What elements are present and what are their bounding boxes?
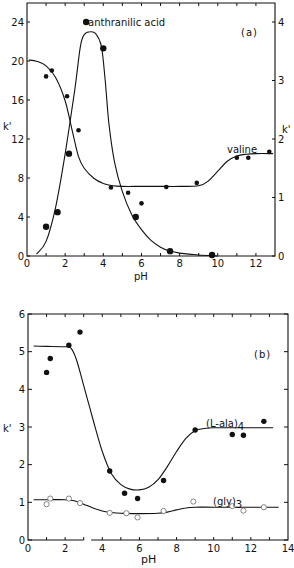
panel-a-y-axis-right: 01234	[272, 17, 284, 262]
data-point	[139, 201, 144, 206]
y-tick-label: 2	[19, 459, 25, 470]
data-point	[100, 45, 106, 51]
panel-a-chart: 024681012 04812162024 01234 anthranilic …	[3, 3, 291, 282]
data-point-open	[107, 510, 112, 515]
data-point	[76, 128, 81, 133]
fit-curve	[29, 60, 273, 186]
data-point	[235, 155, 240, 160]
y-tick-label: 3	[19, 422, 25, 433]
data-point	[54, 209, 60, 215]
data-point-open	[124, 511, 129, 516]
data-point-open	[135, 515, 140, 520]
x-tick-label: 6	[138, 258, 144, 269]
gly-label-subscript: 3	[236, 499, 242, 510]
y-tick-label: 4	[19, 384, 25, 395]
y-right-tick-label: 2	[278, 134, 284, 145]
panel-b-y-label: k'	[3, 423, 12, 434]
panel-a-points	[43, 19, 272, 258]
y-tick-label: 24	[11, 17, 24, 28]
data-point	[194, 181, 199, 186]
panel-a-x-label: pH	[134, 271, 148, 282]
data-point	[135, 496, 140, 501]
data-point	[261, 419, 266, 424]
panel-a-y-label-right: k'	[282, 124, 291, 135]
y-tick-label: 5	[19, 346, 25, 357]
x-tick-label: 10	[211, 258, 224, 269]
data-point-open	[48, 496, 53, 501]
data-point-open	[191, 499, 196, 504]
x-tick-label: 12	[250, 258, 263, 269]
x-tick-label: 2	[62, 258, 68, 269]
data-point	[44, 370, 49, 375]
data-point	[230, 432, 235, 437]
y-tick-label: 1	[19, 497, 25, 508]
x-tick-label: 10	[207, 543, 220, 554]
x-tick-label: 0	[25, 543, 31, 554]
panel-b-y-axis: 0123456	[19, 309, 288, 546]
data-point	[164, 185, 169, 190]
data-point-open	[161, 508, 166, 513]
figure: 024681012 04812162024 01234 anthranilic …	[0, 0, 294, 568]
data-point	[66, 150, 72, 156]
data-point-open	[261, 505, 266, 510]
data-point	[107, 468, 112, 473]
data-point	[209, 252, 215, 258]
data-point	[50, 68, 55, 73]
gly-label-main: (gly)	[213, 496, 236, 507]
panel-b-axes-frame	[28, 314, 288, 540]
l-ala-label-main: (L-ala)	[206, 418, 238, 429]
data-point-open	[66, 496, 71, 501]
y-right-tick-label: 4	[278, 17, 284, 28]
data-point	[109, 185, 114, 190]
x-tick-label: 12	[244, 543, 257, 554]
y-tick-label: 0	[19, 535, 25, 546]
y-tick-label: 20	[11, 56, 24, 67]
data-point	[48, 356, 53, 361]
y-tick-label: 4	[18, 212, 24, 223]
panel-b-tag: (b)	[254, 349, 271, 360]
y-right-tick-label: 1	[278, 192, 284, 203]
data-point	[161, 478, 166, 483]
x-tick-label: 0	[24, 258, 30, 269]
panel-a-axes-frame	[27, 3, 275, 256]
data-point	[192, 427, 197, 432]
y-tick-label: 8	[18, 173, 24, 184]
anthranilic-acid-label: anthranilic acid	[88, 17, 165, 28]
data-point-open	[77, 500, 82, 505]
x-tick-label: 8	[173, 543, 179, 554]
data-point	[122, 491, 127, 496]
y-tick-label: 12	[11, 134, 24, 145]
data-point-open	[44, 502, 49, 507]
data-point	[43, 224, 49, 230]
gly-3-label: (gly)3	[213, 496, 242, 510]
x-tick-label: 4	[99, 543, 105, 554]
panel-a-x-axis: 024681012	[24, 3, 262, 269]
data-point	[65, 94, 70, 99]
x-tick-label: 2	[62, 543, 68, 554]
data-point	[44, 74, 49, 79]
panel-b-x-label: pH	[141, 553, 156, 566]
data-point	[167, 248, 173, 254]
data-point	[267, 150, 272, 155]
data-point	[241, 433, 246, 438]
y-tick-label: 16	[11, 95, 24, 106]
fit-curve	[37, 32, 218, 256]
data-point	[77, 329, 82, 334]
x-tick-label: 4	[100, 258, 106, 269]
panel-a-tag: (a)	[241, 27, 258, 38]
data-point	[133, 214, 139, 220]
x-tick-label: 14	[282, 543, 294, 554]
y-tick-label: 6	[19, 309, 25, 320]
data-point	[246, 155, 251, 160]
l-ala-label-subscript: 4	[238, 421, 244, 432]
data-point	[126, 191, 131, 196]
y-tick-label: 0	[18, 251, 24, 262]
panel-a-y-label-left: k'	[3, 121, 12, 132]
valine-label: valine	[227, 144, 257, 155]
y-right-tick-label: 3	[278, 75, 284, 86]
data-point	[66, 343, 71, 348]
l-ala-4-label: (L-ala)4	[206, 418, 244, 432]
panel-b-chart: 02468101214 0123456 (b) (L-ala)4 (gly)3 …	[3, 309, 294, 567]
y-right-tick-label: 0	[278, 251, 284, 262]
x-tick-label: 8	[176, 258, 182, 269]
